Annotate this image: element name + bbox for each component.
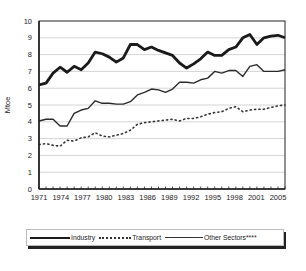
gridlines bbox=[39, 38, 285, 172]
y-tick-label: 5 bbox=[28, 101, 32, 110]
x-tick-label: 1971 bbox=[31, 193, 48, 202]
x-tick-label: 1995 bbox=[204, 193, 221, 202]
legend-item-industry: Industry bbox=[30, 234, 95, 241]
series-line-transport bbox=[39, 105, 285, 146]
series-lines bbox=[39, 34, 285, 146]
industry-line-swatch-icon bbox=[30, 237, 70, 239]
x-tick-label: 1992 bbox=[183, 193, 200, 202]
y-tick-label: 4 bbox=[28, 117, 32, 126]
legend: Industry Transport Other Sectors**** bbox=[26, 229, 284, 246]
x-tick-label: 1983 bbox=[118, 193, 135, 202]
y-tick-label: 9 bbox=[28, 33, 32, 42]
y-tick-label: 8 bbox=[28, 50, 32, 59]
x-tick-label: 1998 bbox=[226, 193, 243, 202]
legend-label-industry: Industry bbox=[71, 234, 95, 241]
x-tick-label: 2005 bbox=[270, 193, 287, 202]
x-tick-label: 1977 bbox=[74, 193, 91, 202]
y-tick-label: 7 bbox=[28, 67, 32, 76]
y-axis-title: Mtoe bbox=[3, 97, 12, 114]
series-line-other-sectors bbox=[39, 65, 285, 126]
legend-label-other-sectors: Other Sectors**** bbox=[204, 234, 257, 241]
y-tick-label: 3 bbox=[28, 134, 32, 143]
legend-label-transport: Transport bbox=[132, 234, 161, 241]
legend-item-transport: Transport bbox=[95, 234, 161, 241]
x-tick-label: 1986 bbox=[139, 193, 156, 202]
transport-dotted-swatch-icon bbox=[99, 237, 131, 239]
legend-item-other-sectors: Other Sectors**** bbox=[161, 234, 257, 241]
other-sectors-line-swatch-icon bbox=[165, 237, 203, 238]
series-line-industry bbox=[39, 34, 285, 84]
y-tick-label: 6 bbox=[28, 84, 32, 93]
x-tick-label: 1980 bbox=[96, 193, 113, 202]
y-tick-label: 1 bbox=[28, 168, 32, 177]
y-axis-ticks: 012345678910 bbox=[24, 17, 32, 194]
x-tick-label: 1974 bbox=[52, 193, 69, 202]
y-tick-label: 10 bbox=[24, 17, 32, 26]
x-tick-label: 2001 bbox=[248, 193, 265, 202]
x-tick-label: 1989 bbox=[161, 193, 178, 202]
y-tick-label: 2 bbox=[28, 151, 32, 160]
